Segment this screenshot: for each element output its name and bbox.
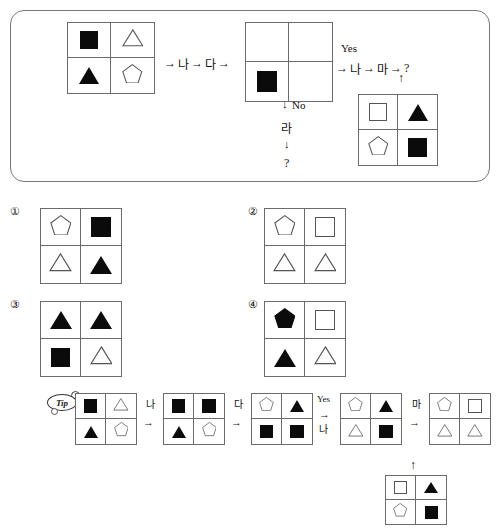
tip-grid-1 <box>75 393 137 445</box>
grid-cell-1 <box>76 394 106 419</box>
option-2-number[interactable]: ② <box>248 205 258 218</box>
grid-cell-1 <box>265 209 305 246</box>
tip-arrow-icon-3: → <box>319 408 330 420</box>
tip-grid-5 <box>429 393 491 445</box>
arrow-icon: → <box>218 56 230 71</box>
grid-cell-4 <box>460 419 490 444</box>
black-square-icon <box>257 71 278 92</box>
grid-cell-2 <box>289 23 332 62</box>
grid-cell-3 <box>164 419 194 444</box>
no-label: No <box>292 99 305 111</box>
grid-cell-1 <box>246 23 289 62</box>
arrow-icon: → <box>336 61 348 76</box>
white-pentagon-icon <box>348 397 363 415</box>
black-square-icon <box>260 425 274 439</box>
grid-cell-2 <box>282 394 312 419</box>
reference-grid <box>358 94 438 166</box>
grid-cell-4 <box>81 339 121 376</box>
grid-cell-3 <box>41 246 81 283</box>
grid-cell-4 <box>416 500 446 524</box>
black-square-icon <box>172 399 186 413</box>
tip-op-na-1: 나 <box>146 396 155 411</box>
grid-cell-1 <box>341 394 371 419</box>
black-square-icon <box>408 138 427 157</box>
black-triangle-icon <box>290 400 304 412</box>
option-3-number[interactable]: ③ <box>10 298 20 311</box>
grid-cell-3 <box>252 419 282 444</box>
op-ma-1: 마 <box>377 60 388 77</box>
no-down-arrow-2-icon: ↓ <box>284 138 290 150</box>
grid-cell-1 <box>41 209 81 246</box>
grid-cell-3 <box>359 130 398 165</box>
grid-cell-4 <box>106 419 136 444</box>
arrow-icon: → <box>363 61 375 76</box>
no-down-arrow-icon: ↓ <box>282 98 288 110</box>
grid-cell-3 <box>386 500 416 524</box>
grid-cell-2 <box>371 394 401 419</box>
white-triangle-icon <box>90 346 113 369</box>
tip-op-ma-1: 마 <box>412 396 421 411</box>
option-2-grid[interactable] <box>264 208 346 284</box>
option-4-grid[interactable] <box>264 301 346 377</box>
grid-cell-2 <box>194 394 224 419</box>
grid-cell-3 <box>265 246 305 283</box>
option-1-number[interactable]: ① <box>10 205 20 218</box>
tip-arrow-icon-4: → <box>409 416 420 428</box>
option-4-number[interactable]: ④ <box>248 298 258 311</box>
grid-cell-2 <box>81 302 121 339</box>
grid-cell-2 <box>460 394 490 419</box>
black-square-icon <box>290 425 304 439</box>
no-question-mark: ? <box>284 156 289 171</box>
op-da-1: 다 <box>205 55 216 72</box>
tip-op-da-1: 다 <box>234 396 243 411</box>
white-triangle-icon <box>314 346 337 369</box>
grid-cell-1 <box>359 95 398 130</box>
grid-cell-4 <box>81 246 121 283</box>
grid-cell-1 <box>430 394 460 419</box>
black-square-icon <box>51 348 71 368</box>
white-triangle-icon <box>49 253 72 276</box>
black-triangle-icon <box>408 104 428 121</box>
tip-grid-3 <box>251 393 313 445</box>
arrow-icon: → <box>164 56 176 71</box>
tip-yes-label: Yes <box>317 394 330 404</box>
black-triangle-icon <box>274 349 296 367</box>
grid-cell-1 <box>252 394 282 419</box>
start-grid <box>67 22 155 94</box>
white-pentagon-icon <box>368 136 389 160</box>
black-square-icon <box>425 506 438 519</box>
white-triangle-icon <box>467 423 483 441</box>
white-triangle-icon <box>348 423 364 441</box>
black-triangle-icon <box>90 256 112 274</box>
grid-cell-2 <box>416 476 446 500</box>
decision-grid <box>245 22 333 102</box>
white-pentagon-icon <box>393 503 407 521</box>
option-3-grid[interactable] <box>40 301 122 377</box>
yes-label: Yes <box>341 42 357 54</box>
grid-cell-4 <box>289 62 332 101</box>
grid-cell-3 <box>341 419 371 444</box>
tip-bubble-dot-3 <box>51 408 58 415</box>
black-triangle-icon <box>84 426 98 438</box>
white-pentagon-icon <box>114 422 129 440</box>
grid-cell-2 <box>81 209 121 246</box>
grid-cell-4 <box>371 419 401 444</box>
grid-cell-1 <box>68 23 111 58</box>
black-triangle-icon <box>79 67 99 84</box>
grid-cell-4 <box>111 58 154 93</box>
white-pentagon-icon <box>122 64 143 88</box>
tip-bottom-grid <box>385 475 447 525</box>
white-triangle-icon <box>273 253 296 276</box>
option-1-grid[interactable] <box>40 208 122 284</box>
grid-cell-4 <box>282 419 312 444</box>
tip-grid-4 <box>340 393 402 445</box>
grid-cell-2 <box>111 23 154 58</box>
grid-cell-1 <box>41 302 81 339</box>
white-triangle-icon <box>314 253 337 276</box>
op-na-1: 나 <box>178 55 189 72</box>
white-pentagon-icon <box>274 215 296 240</box>
grid-cell-4 <box>194 419 224 444</box>
grid-cell-3 <box>430 419 460 444</box>
tip-grid-2 <box>163 393 225 445</box>
black-square-icon <box>379 425 393 439</box>
